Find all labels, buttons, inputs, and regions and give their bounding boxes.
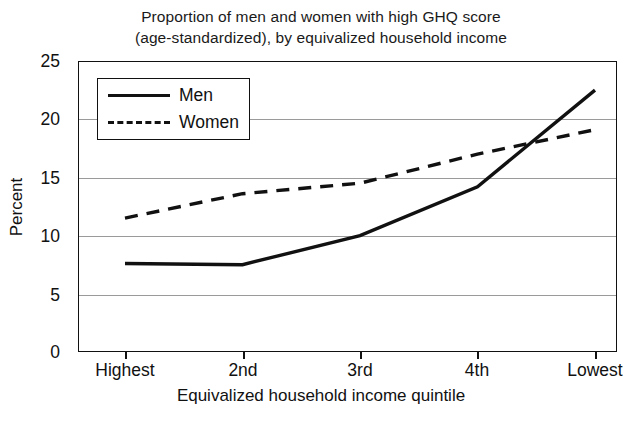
legend-key-solid-line-icon xyxy=(108,88,170,102)
y-axis-title-wrap: Percent xyxy=(2,61,32,352)
gridline-10 xyxy=(79,236,616,237)
x-tick-mark-4th xyxy=(477,352,479,359)
x-tick-mark-lowest xyxy=(595,352,597,359)
x-tick-label-4th: 4th xyxy=(417,360,537,380)
x-tick-label-highest: Highest xyxy=(65,360,185,380)
y-axis-title: Percent xyxy=(2,62,32,353)
chart-title-line-2: (age-standardized), by equivalized house… xyxy=(0,27,642,48)
chart-title-line-1: Proportion of men and women with high GH… xyxy=(141,8,501,25)
chart-title: Proportion of men and women with high GH… xyxy=(0,6,642,48)
x-tick-label-2nd: 2nd xyxy=(183,360,303,380)
legend-key-dashed-line-icon xyxy=(108,115,170,129)
gridline-5 xyxy=(79,295,616,296)
legend-label-women: Women xyxy=(179,113,239,131)
legend-item-women: Women xyxy=(98,109,249,135)
x-axis-title: Equivalized household income quintile xyxy=(0,386,642,406)
x-tick-label-3rd: 3rd xyxy=(300,360,420,380)
x-tick-mark-highest xyxy=(125,352,127,359)
legend-item-men: Men xyxy=(98,82,249,108)
gridline-15 xyxy=(79,178,616,179)
legend: Men Women xyxy=(97,78,250,140)
x-tick-mark-3rd xyxy=(360,352,362,359)
x-tick-mark-2nd xyxy=(243,352,245,359)
ghq-score-line-chart: Proportion of men and women with high GH… xyxy=(0,0,642,426)
x-tick-label-lowest: Lowest xyxy=(535,360,642,380)
legend-label-men: Men xyxy=(179,86,213,104)
